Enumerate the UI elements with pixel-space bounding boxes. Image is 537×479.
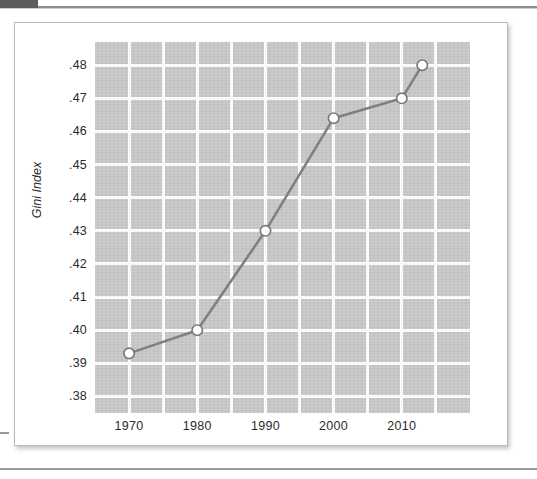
page-top-rule-secondary (0, 8, 537, 9)
y-axis-tick-label: .43 (47, 224, 87, 238)
series-marker (260, 226, 270, 236)
y-axis-tick-label: .45 (47, 158, 87, 172)
series-line-path (129, 65, 422, 353)
y-axis-tick-label: .47 (47, 91, 87, 105)
series-marker (124, 348, 134, 358)
plot-area (95, 42, 470, 413)
y-axis-tick-label: .46 (47, 124, 87, 138)
y-axis-tick-label: .38 (47, 389, 87, 403)
y-axis-tick-label: .40 (47, 323, 87, 337)
page-left-tick-artifact (0, 432, 9, 434)
figure-card: Gini Index .48.47.46.45.44.43.42.41.40.3… (14, 22, 508, 446)
series-marker (417, 60, 427, 70)
series-marker (328, 113, 338, 123)
line-series (95, 42, 470, 413)
x-axis-tick-label: 1970 (115, 419, 144, 433)
x-axis-tick-labels: 19701980199020002010 (95, 419, 470, 439)
y-axis-tick-label: .39 (47, 356, 87, 370)
x-axis-tick-label: 2010 (387, 419, 416, 433)
series-marker (192, 325, 202, 335)
y-axis-tick-labels: .48.47.46.45.44.43.42.41.40.39.38 (39, 42, 87, 413)
x-axis-tick-label: 1990 (251, 419, 280, 433)
y-axis-tick-label: .44 (47, 191, 87, 205)
y-axis-tick-label: .42 (47, 257, 87, 271)
page-bottom-rule (0, 468, 537, 470)
y-axis-tick-label: .41 (47, 290, 87, 304)
x-axis-tick-label: 2000 (319, 419, 348, 433)
y-axis-tick-label: .48 (47, 58, 87, 72)
x-axis-tick-label: 1980 (183, 419, 212, 433)
series-marker (397, 93, 407, 103)
